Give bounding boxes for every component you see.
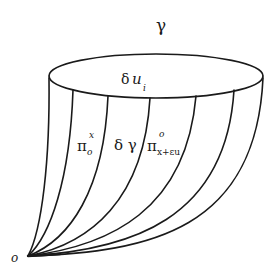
gamma-label: γ — [156, 17, 166, 34]
apex-o-label: o — [11, 252, 18, 264]
pi-x-eps-u-base: π — [147, 139, 157, 154]
rim-delta-label: δ — [121, 72, 129, 86]
path-curve-3 — [28, 96, 108, 256]
loop-gamma-rim — [49, 54, 263, 98]
pi-o-x-subscript: o — [87, 148, 92, 157]
path-curve-7 — [28, 78, 263, 256]
path-curve-6 — [28, 90, 234, 256]
rim-i-subscript: i — [143, 84, 146, 93]
path-curve-4 — [28, 98, 150, 256]
path-curve-2 — [28, 90, 73, 256]
rim-u-label: u — [132, 72, 142, 87]
delta-gamma-label: δ γ — [114, 138, 137, 153]
pi-o-x-superscript: x — [89, 131, 94, 140]
path-family-diagram — [0, 0, 276, 278]
pi-x-eps-u-superscript: o — [159, 130, 164, 139]
pi-x-eps-u-subscript: x+εu — [157, 148, 180, 157]
pi-o-x-base: π — [77, 139, 87, 154]
